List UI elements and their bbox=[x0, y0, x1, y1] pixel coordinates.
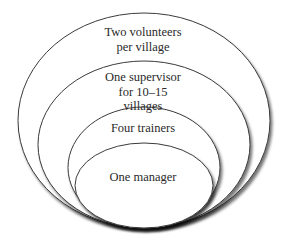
label-volunteers: Two volunteers per village bbox=[0, 25, 286, 54]
label-supervisor-line-1: One supervisor bbox=[0, 70, 286, 85]
label-supervisor: One supervisor for 10–15 villages bbox=[0, 70, 286, 114]
label-supervisor-line-3: villages bbox=[0, 99, 286, 114]
ellipse-manager bbox=[75, 143, 213, 228]
label-manager: One manager bbox=[0, 170, 286, 185]
label-trainers-line-1: Four trainers bbox=[0, 121, 286, 136]
label-trainers: Four trainers bbox=[0, 121, 286, 136]
nested-ellipse-diagram: Two volunteers per village One superviso… bbox=[0, 0, 286, 242]
label-supervisor-line-2: for 10–15 bbox=[0, 85, 286, 100]
label-volunteers-line-1: Two volunteers bbox=[0, 25, 286, 40]
label-manager-line-1: One manager bbox=[0, 170, 286, 185]
label-volunteers-line-2: per village bbox=[0, 40, 286, 55]
